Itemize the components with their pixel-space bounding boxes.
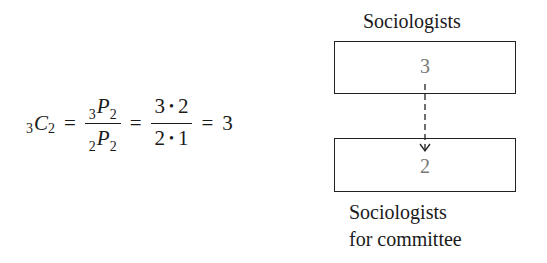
bottom-label-line2: for committee: [349, 226, 462, 253]
bottom-label-line1: Sociologists: [349, 199, 462, 226]
dashed-arrow-icon: [0, 0, 547, 263]
bottom-label: Sociologists for committee: [349, 199, 462, 253]
